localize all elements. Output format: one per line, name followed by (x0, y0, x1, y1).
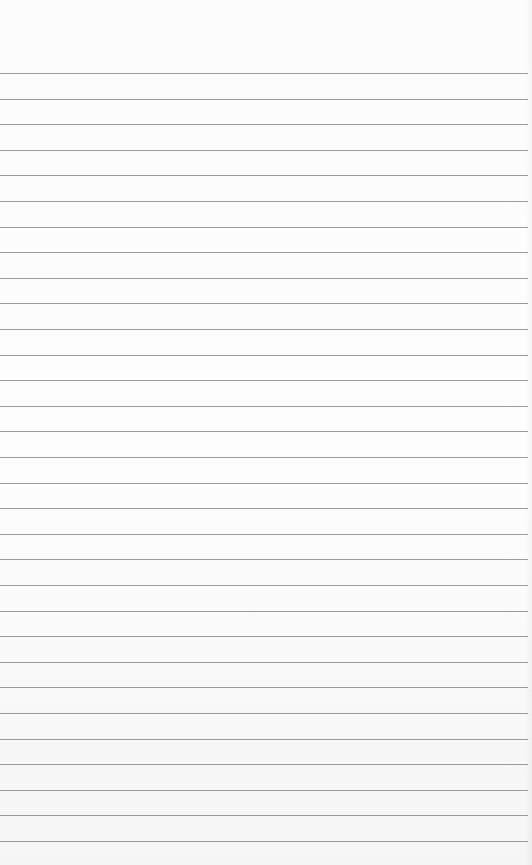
ruled-line (0, 457, 528, 458)
ruled-line (0, 175, 528, 176)
ruled-line (0, 713, 528, 714)
ruled-line (0, 431, 528, 432)
ruled-line (0, 201, 528, 202)
ruled-line (0, 303, 528, 304)
ruled-line (0, 764, 528, 765)
ruled-line (0, 559, 528, 560)
ruled-line (0, 355, 528, 356)
ruled-line (0, 99, 528, 100)
ruled-line (0, 406, 528, 407)
ruled-line (0, 534, 528, 535)
ruled-line (0, 790, 528, 791)
ruled-line (0, 687, 528, 688)
ruled-line (0, 662, 528, 663)
ruled-line (0, 278, 528, 279)
ruled-line (0, 841, 528, 842)
ruled-line (0, 483, 528, 484)
ruled-line (0, 585, 528, 586)
ruled-line (0, 508, 528, 509)
ruled-line (0, 815, 528, 816)
ruled-line (0, 739, 528, 740)
ruled-line (0, 252, 528, 253)
ruled-line (0, 380, 528, 381)
ruled-line (0, 124, 528, 125)
ruled-line (0, 329, 528, 330)
ruled-line (0, 636, 528, 637)
lined-paper (0, 0, 532, 865)
ruled-line (0, 227, 528, 228)
ruled-line (0, 150, 528, 151)
ruled-line (0, 73, 528, 74)
ruled-line (0, 611, 528, 612)
